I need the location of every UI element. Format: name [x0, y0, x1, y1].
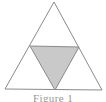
geometry-diagram — [0, 0, 106, 102]
caption-clip-region: Figure 1 — [0, 93, 106, 102]
figure-caption: Figure 1 — [0, 93, 106, 102]
figure-container: Figure 1 — [0, 0, 106, 102]
